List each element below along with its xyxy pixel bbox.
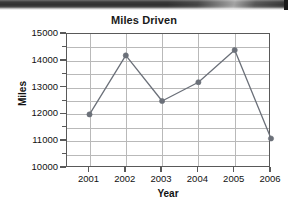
plot-inner (67, 34, 269, 166)
series-line (90, 50, 271, 138)
data-point-2006 (268, 136, 273, 141)
x-axis-tick-label: 2005 (214, 173, 254, 184)
data-point-2004 (196, 80, 201, 85)
x-axis-tick-label: 2002 (105, 173, 145, 184)
scan-artifact-edge (284, 0, 288, 10)
y-axis-tick-label: 10000 (0, 161, 58, 172)
y-axis-tick-label: 11000 (0, 134, 58, 145)
y-axis-tick-label: 15000 (0, 27, 58, 38)
x-axis-title: Year (66, 188, 270, 199)
x-axis-tick-label: 2006 (250, 173, 288, 184)
data-point-2005 (232, 47, 237, 52)
x-axis-tick-label: 2004 (177, 173, 217, 184)
y-axis-tick-label: 12000 (0, 107, 58, 118)
scan-artifact-sheen (168, 0, 288, 9)
x-axis-tick-label: 2001 (69, 173, 109, 184)
data-point-2001 (87, 112, 92, 117)
line-chart-figure: Miles Driven Miles Year 1000011000120001… (0, 10, 288, 211)
scan-edge-artifact (0, 0, 288, 10)
y-axis-tick-label: 14000 (0, 54, 58, 65)
series-markers (87, 47, 274, 141)
x-axis-tick-label: 2003 (141, 173, 181, 184)
data-point-2003 (160, 98, 165, 103)
chart-title: Miles Driven (0, 14, 288, 26)
data-point-2002 (123, 53, 128, 58)
y-axis-tick-label: 13000 (0, 81, 58, 92)
plot-area (66, 33, 270, 167)
series-miles-driven (67, 34, 271, 168)
